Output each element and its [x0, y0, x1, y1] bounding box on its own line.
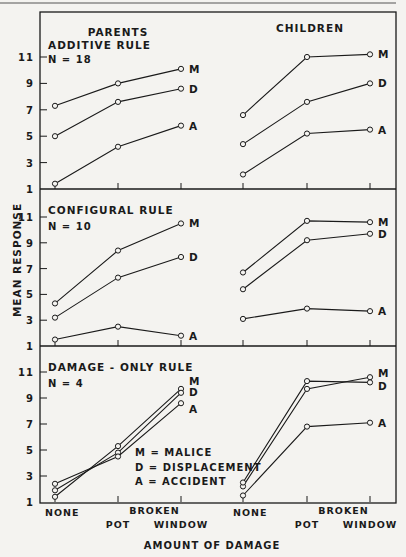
y-tick-label: 7 [26, 264, 34, 275]
data-point [178, 221, 183, 226]
series-end-label: D [378, 380, 388, 392]
data-point [52, 481, 57, 486]
data-point [115, 99, 120, 104]
x-label-none: NONE [45, 507, 79, 518]
series-line-children-M [243, 221, 370, 273]
series-end-label: M [189, 63, 200, 75]
data-point [367, 52, 372, 57]
data-point [115, 144, 120, 149]
series-end-label: D [189, 83, 199, 95]
data-point [304, 218, 309, 223]
frame-border [40, 12, 396, 503]
data-point [304, 424, 309, 429]
data-point [52, 494, 57, 499]
series-line-children-M [243, 54, 370, 115]
n-label: N = 18 [48, 54, 92, 65]
data-point [367, 375, 372, 380]
data-point [178, 390, 183, 395]
series-end-label: M [378, 367, 389, 379]
data-series [52, 52, 372, 500]
n-label: N = 4 [48, 378, 84, 389]
data-point [304, 54, 309, 59]
y-tick-label: 5 [26, 131, 34, 142]
series-end-label: M [189, 217, 200, 229]
data-point [115, 248, 120, 253]
series-end-label: A [378, 305, 387, 317]
data-point [367, 127, 372, 132]
data-point [367, 220, 372, 225]
series-line-parents-A [55, 126, 181, 184]
data-point [240, 172, 245, 177]
y-tick-label: 7 [26, 419, 34, 430]
rule-label: ADDITIVE RULE [48, 39, 151, 51]
data-point [304, 238, 309, 243]
series-line-parents-D [55, 89, 181, 137]
y-tick-label: 5 [26, 445, 34, 456]
x-label-none: NONE [233, 507, 267, 518]
data-point [52, 488, 57, 493]
y-tick-label: 9 [26, 238, 34, 249]
n-label: N = 10 [48, 221, 92, 232]
y-tick-label: 7 [26, 105, 34, 116]
data-point [367, 309, 372, 314]
legend-entry-D: D = DISPLACEMENT [135, 462, 261, 473]
data-point [304, 379, 309, 384]
y-tick-label: 11 [18, 367, 34, 378]
data-point [367, 231, 372, 236]
data-point [240, 270, 245, 275]
data-point [52, 301, 57, 306]
series-end-label: A [378, 124, 387, 136]
y-tick-label: 3 [26, 471, 34, 482]
data-point [178, 86, 183, 91]
data-point [178, 254, 183, 259]
data-point [115, 454, 120, 459]
axis-ticks [40, 57, 370, 502]
data-point [115, 324, 120, 329]
rule-label: CONFIGURAL RULE [48, 204, 174, 216]
y-tick-label: 3 [26, 315, 34, 326]
data-point [304, 306, 309, 311]
mean-response-chart: 1357911ADDITIVE RULEN = 18MDAMDA1357911C… [0, 0, 406, 557]
y-tick-label: 5 [26, 289, 34, 300]
series-line-children-M [243, 377, 370, 486]
data-point [367, 380, 372, 385]
data-point [240, 142, 245, 147]
x-label-pot: POT [106, 519, 131, 530]
series-end-label: A [189, 120, 198, 132]
data-point [240, 493, 245, 498]
y-tick-label: 9 [26, 78, 34, 89]
data-point [115, 444, 120, 449]
data-point [52, 181, 57, 186]
data-point [178, 123, 183, 128]
series-end-label: A [189, 330, 198, 342]
data-point [115, 275, 120, 280]
plot-frame [40, 12, 396, 503]
data-point [304, 386, 309, 391]
y-tick-label: 1 [26, 497, 34, 508]
data-point [367, 420, 372, 425]
data-point [304, 131, 309, 136]
series-end-label: D [189, 386, 199, 398]
x-label-window: WINDOW [343, 519, 397, 530]
data-point [52, 134, 57, 139]
series-end-label: D [378, 228, 388, 240]
rule-label: DAMAGE - ONLY RULE [48, 361, 193, 373]
data-point [178, 66, 183, 71]
y-tick-label: 11 [18, 52, 34, 63]
column-title-parents: PARENTS [88, 26, 149, 38]
data-point [178, 333, 183, 338]
series-line-children-D [243, 381, 370, 482]
data-point [178, 401, 183, 406]
column-title-children: CHILDREN [276, 22, 344, 34]
data-point [367, 81, 372, 86]
data-point [240, 112, 245, 117]
data-point [304, 99, 309, 104]
legend-entry-M: M = MALICE [135, 447, 212, 458]
series-end-label: D [378, 77, 388, 89]
data-point [240, 287, 245, 292]
x-axis-title: AMOUNT OF DAMAGE [144, 540, 281, 551]
series-end-label: M [378, 216, 389, 228]
series-line-children-A [243, 423, 370, 496]
y-tick-label: 1 [26, 341, 34, 352]
x-label-window: WINDOW [154, 519, 208, 530]
